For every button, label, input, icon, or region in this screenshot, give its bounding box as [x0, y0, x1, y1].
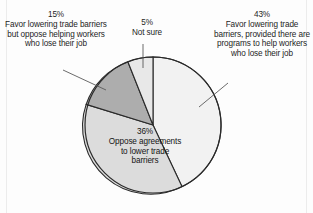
pie-label-15: 15% Favor lowering trade barriers but op… [2, 10, 110, 49]
pie-label-5: 5% Not sure [112, 18, 182, 38]
pie-label-36: 36% Oppose agreements to lower trade bar… [108, 127, 182, 166]
pie-label-43-description: Favor lowering trade barriers, provided … [213, 20, 311, 58]
pie-label-43: 43% Favor lowering trade barriers, provi… [213, 10, 311, 58]
pie-label-36-percent: 36% [108, 127, 182, 137]
pie-label-36-description: Oppose agreements to lower trade barrier… [108, 137, 182, 166]
pie-label-15-description: Favor lowering trade barriers but oppose… [2, 20, 110, 49]
leader-line-15 [63, 70, 106, 90]
pie-chart-figure: 15% Favor lowering trade barriers but op… [0, 0, 313, 213]
pie-label-15-percent: 15% [2, 10, 110, 20]
pie-label-43-percent: 43% [213, 10, 311, 20]
pie-label-5-description: Not sure [112, 28, 182, 38]
pie-label-5-percent: 5% [112, 18, 182, 28]
